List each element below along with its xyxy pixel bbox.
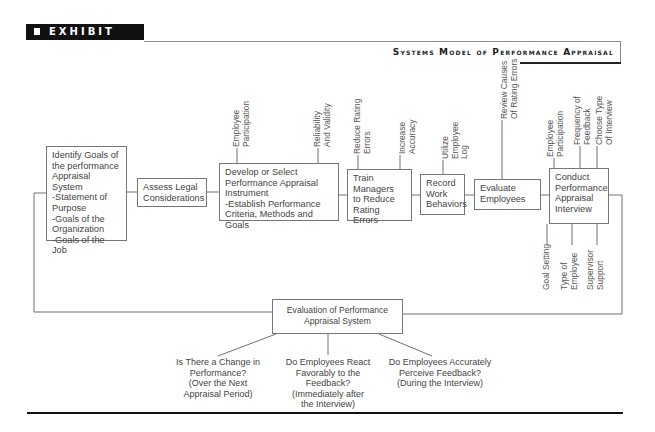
box-line: Rating Errors [353,205,406,226]
box-line: Appraisal System [278,316,397,327]
box-line: Organization [52,224,121,235]
box-line: -Establish Performance [225,199,333,210]
question-line: Appraisal Period) [168,389,268,400]
label-line: Support [596,250,606,290]
box-line: Performance Appraisal [225,178,333,189]
question-change-in-performance: Is There a Change in Performance? (Over … [168,357,268,399]
question-line: (Over the Next [168,378,268,389]
box-line: Work [426,189,459,200]
box-line: the performance [52,161,121,172]
label-goal-setting: Goal Setting [542,244,552,290]
label-line: And Validity [323,103,333,147]
question-line: Do Employees React [278,357,378,368]
box-line: Purpose [52,203,121,214]
label-line: Goal Setting [542,244,552,290]
box-assess-legal: Assess Legal Considerations [137,178,207,207]
box-line: Performance [555,183,603,194]
label-line: Errors [363,99,373,154]
box-line: Record [426,178,459,189]
label-employee-participation-interview: Employee Participation [546,111,565,157]
box-line: Managers [353,184,406,195]
box-develop-instrument: Develop or Select Performance Appraisal … [219,163,339,221]
label-reliability-validity: Reliability And Validity [313,103,332,147]
box-evaluation-system: Evaluation of Performance Appraisal Syst… [272,299,403,334]
label-employee-participation: Employee Participation [232,101,251,147]
box-line: -Statement of [52,192,121,203]
question-line: Perceive Feedback? [380,368,500,379]
question-line: Performance? [168,368,268,379]
box-line: Considerations [143,193,201,204]
box-conduct-interview: Conduct Performance Appraisal Interview [549,168,609,224]
label-type-of-employee: Type of Employee [560,253,579,290]
box-line: -Goals of the [52,214,121,225]
label-choose-interview-type: Choose Type Of Interview [595,96,614,145]
box-evaluate-employees: Evaluate Employees [474,179,541,210]
box-line: Criteria, Methods and Goals [225,209,333,230]
question-line: Is There a Change in [168,357,268,368]
label-increase-accuracy: Increase Accuracy [398,120,417,154]
box-line: Interview [555,204,603,215]
label-line: Feedback [583,96,593,145]
label-frequency-feedback: Frequency of Feedback [573,96,592,145]
box-line: Employees [480,194,535,205]
box-line: Train [353,173,406,184]
question-react-favorably: Do Employees React Favorably to the Feed… [278,357,378,410]
bottom-rule [27,412,623,414]
box-line: Appraisal System [52,171,121,192]
question-line: Feedback? [278,378,378,389]
label-supervisor-support: Supervisor Support [586,250,605,290]
question-line: Do Employees Accurately [380,357,500,368]
box-line: Evaluate [480,183,535,194]
label-reduce-rating-errors: Reduce Rating Errors [353,99,372,154]
question-line: (During the Interview) [380,378,500,389]
box-line: to Reduce [353,194,406,205]
box-record-behaviors: Record Work Behaviors [420,174,465,215]
box-line: Appraisal [555,193,603,204]
box-line: Behaviors [426,199,459,210]
question-perceive-feedback: Do Employees Accurately Perceive Feedbac… [380,357,500,389]
label-review-causes: Review Causes Of Rating Errors [500,58,519,119]
box-identify-goals: Identify Goals of the performance Apprai… [46,146,127,241]
box-line: -Goals of the Job [52,235,121,256]
question-line: the Interview) [278,399,378,410]
box-line: Develop or Select [225,167,333,178]
box-line: Identify Goals of [52,150,121,161]
label-line: Employee [570,253,580,290]
label-line: Log [460,122,470,159]
label-line: Of Interview [605,96,615,145]
label-line: Participation [242,101,252,147]
question-line: (Immediately after [278,389,378,400]
box-line: Evaluation of Performance [278,305,397,316]
box-line: Assess Legal [143,182,201,193]
box-line: Instrument [225,188,333,199]
label-line: Accuracy [408,120,418,154]
label-line: Participation [556,111,566,157]
label-line: Of Rating Errors [510,58,520,119]
question-line: Favorably to the [278,368,378,379]
box-line: Conduct [555,172,603,183]
box-train-managers: Train Managers to Reduce Rating Errors [347,169,412,221]
label-utilize-employee-log: Utilize Employee Log [441,122,470,159]
